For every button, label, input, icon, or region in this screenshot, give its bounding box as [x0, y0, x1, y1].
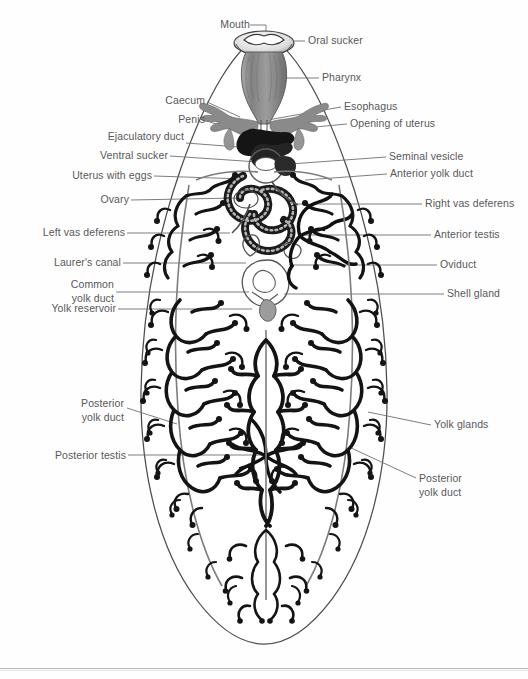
label-common-yolk-duct[interactable]: Commonyolk duct: [22, 277, 114, 305]
label-oral-sucker[interactable]: Oral sucker: [308, 34, 363, 47]
label-uterus-with-eggs[interactable]: Uterus with eggs: [44, 169, 152, 182]
label-posterior-yolk-duct-left-line1: Posterior: [81, 397, 124, 409]
label-caecum[interactable]: Caecum: [137, 94, 205, 107]
label-posterior-yolk-duct-left[interactable]: Posterioryolk duct: [50, 396, 124, 424]
anatomy-figure: Mouth Caecum Penis Ejaculatory duct Vent…: [0, 0, 528, 679]
label-shell-gland[interactable]: Shell gland: [447, 287, 500, 300]
label-opening-of-uterus[interactable]: Opening of uterus: [350, 117, 435, 130]
label-ventral-sucker[interactable]: Ventral sucker: [72, 149, 168, 162]
footer-divider: [0, 668, 528, 669]
label-laurers-canal[interactable]: Laurer's canal: [28, 256, 121, 269]
label-yolk-glands[interactable]: Yolk glands: [434, 418, 488, 431]
label-anterior-testis[interactable]: Anterior testis: [434, 228, 500, 241]
label-ejaculatory-duct[interactable]: Ejaculatory duct: [78, 130, 184, 143]
label-pharynx[interactable]: Pharynx: [322, 71, 361, 84]
label-left-vas-deferens[interactable]: Left vas deferens: [18, 226, 125, 239]
label-posterior-yolk-duct-left-line2: yolk duct: [82, 411, 124, 423]
label-posterior-testis[interactable]: Posterior testis: [28, 449, 126, 462]
label-esophagus[interactable]: Esophagus: [344, 100, 397, 113]
label-posterior-yolk-duct-right[interactable]: Posterioryolk duct: [419, 471, 462, 499]
footer-divider-shadow: [0, 670, 528, 671]
label-penis[interactable]: Penis: [150, 113, 205, 126]
label-seminal-vesicle[interactable]: Seminal vesicle: [389, 150, 463, 163]
label-mouth[interactable]: Mouth: [180, 18, 250, 31]
label-oviduct[interactable]: Oviduct: [440, 258, 476, 271]
yolk-reservoir-structure: [260, 300, 277, 322]
label-posterior-yolk-duct-right-line2: yolk duct: [419, 486, 461, 498]
label-anterior-yolk-duct[interactable]: Anterior yolk duct: [390, 167, 473, 180]
mouth-opening: [244, 34, 284, 44]
diagram-canvas: [0, 0, 528, 679]
label-yolk-reservoir[interactable]: Yolk reservoir: [24, 302, 116, 315]
label-right-vas-deferens[interactable]: Right vas deferens: [425, 197, 514, 210]
label-common-yolk-duct-line1: Common: [71, 278, 114, 290]
label-ovary[interactable]: Ovary: [80, 193, 129, 206]
label-posterior-yolk-duct-right-line1: Posterior: [419, 472, 462, 484]
